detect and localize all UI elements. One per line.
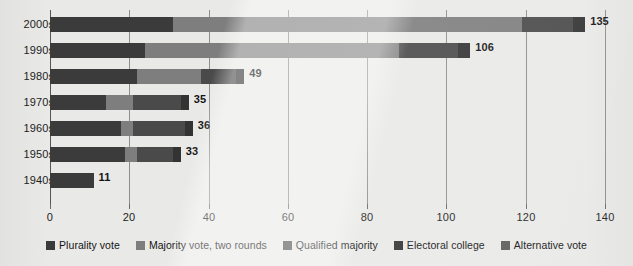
legend-swatch-icon xyxy=(283,241,292,250)
bar-segment xyxy=(50,95,106,110)
x-tick-140 xyxy=(605,204,606,209)
x-tick-label-100: 100 xyxy=(437,211,456,223)
bar-segment xyxy=(399,43,458,58)
bar-row: 2000s135 xyxy=(0,12,633,38)
legend-label: Alternative vote xyxy=(514,239,587,251)
legend-swatch-icon xyxy=(46,241,55,250)
bar-segment xyxy=(133,95,181,110)
x-tick-100 xyxy=(446,204,447,209)
x-tick-60 xyxy=(288,204,289,209)
legend-label: Plurality vote xyxy=(59,239,120,251)
bar-segment xyxy=(173,147,181,162)
legend-label: Majority vote, two rounds xyxy=(149,239,267,251)
bar-row: 1980s49 xyxy=(0,64,633,90)
x-tick-label-140: 140 xyxy=(596,211,615,223)
stacked-bar xyxy=(50,147,181,162)
bar-row: 1950s33 xyxy=(0,142,633,168)
bar-segment xyxy=(50,43,145,58)
legend-item-4[interactable]: Alternative vote xyxy=(501,239,587,251)
x-tick-label-60: 60 xyxy=(282,211,295,223)
legend-item-2[interactable]: Qualified majority xyxy=(283,239,378,251)
plot-area: 2000s1351990s1061980s491970s351960s36195… xyxy=(0,0,633,266)
bar-segment xyxy=(201,69,237,84)
bar-segment xyxy=(50,173,94,188)
bar-segment xyxy=(137,147,173,162)
legend-swatch-icon xyxy=(136,241,145,250)
legend-label: Qualified majority xyxy=(296,239,378,251)
bar-segment xyxy=(121,121,133,136)
bar-row: 1960s36 xyxy=(0,116,633,142)
bar-segment xyxy=(137,69,200,84)
bar-segment xyxy=(106,95,134,110)
stacked-bar xyxy=(50,43,470,58)
x-tick-20 xyxy=(129,204,130,209)
bar-total-label: 35 xyxy=(194,93,206,105)
legend-item-0[interactable]: Plurality vote xyxy=(46,239,120,251)
bar-segment xyxy=(236,69,244,84)
bar-total-label: 49 xyxy=(249,67,261,79)
x-tick-80 xyxy=(367,204,368,209)
legend-swatch-icon xyxy=(394,241,403,250)
bar-total-label: 135 xyxy=(590,15,609,27)
bar-segment xyxy=(458,43,470,58)
chart-container: 2000s1351990s1061980s491970s351960s36195… xyxy=(0,0,633,266)
bar-row: 1970s35 xyxy=(0,90,633,116)
x-tick-0 xyxy=(50,204,51,209)
bar-segment xyxy=(185,121,193,136)
bar-total-label: 33 xyxy=(186,145,198,157)
stacked-bar xyxy=(50,121,193,136)
chart-legend: Plurality voteMajority vote, two roundsQ… xyxy=(0,236,633,254)
legend-item-3[interactable]: Electoral college xyxy=(394,239,485,251)
bar-segment xyxy=(173,17,522,32)
stacked-bar xyxy=(50,95,189,110)
x-tick-label-20: 20 xyxy=(123,211,136,223)
x-tick-label-120: 120 xyxy=(517,211,536,223)
x-tick-label-40: 40 xyxy=(203,211,216,223)
bar-row: 1940s11 xyxy=(0,168,633,194)
bar-segment xyxy=(50,121,121,136)
stacked-bar xyxy=(50,17,585,32)
x-tick-label-0: 0 xyxy=(47,211,53,223)
bar-segment xyxy=(573,17,585,32)
bar-segment xyxy=(133,121,185,136)
bar-segment xyxy=(125,147,137,162)
stacked-bar xyxy=(50,173,94,188)
x-tick-120 xyxy=(526,204,527,209)
bar-segment xyxy=(522,17,574,32)
bar-segment xyxy=(145,43,399,58)
bar-segment xyxy=(181,95,189,110)
bar-total-label: 11 xyxy=(99,171,111,183)
x-tick-40 xyxy=(209,204,210,209)
x-axis: 020406080100120140 xyxy=(0,204,633,226)
bar-total-label: 106 xyxy=(475,41,494,53)
legend-label: Electoral college xyxy=(407,239,485,251)
stacked-bar xyxy=(50,69,244,84)
legend-swatch-icon xyxy=(501,241,510,250)
bar-total-label: 36 xyxy=(198,119,210,131)
bar-row: 1990s106 xyxy=(0,38,633,64)
bar-segment xyxy=(50,69,137,84)
x-tick-label-80: 80 xyxy=(361,211,374,223)
legend-item-1[interactable]: Majority vote, two rounds xyxy=(136,239,267,251)
bar-segment xyxy=(50,147,125,162)
bar-segment xyxy=(50,17,173,32)
